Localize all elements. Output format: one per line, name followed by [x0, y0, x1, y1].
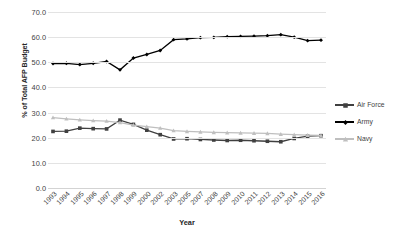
- x-axis-tick-label: 2009: [216, 190, 232, 206]
- y-axis-tick-label: 50.0: [32, 58, 46, 67]
- legend-label: Air Force: [357, 101, 385, 108]
- legend-marker-square: [341, 101, 348, 108]
- legend-item-air-force[interactable]: Air Force: [335, 100, 385, 109]
- data-point: [279, 140, 283, 144]
- line-chart: % of Total AFP Budget 0.010.020.030.040.…: [0, 0, 405, 232]
- data-point: [158, 133, 162, 137]
- gridline: [48, 12, 326, 13]
- x-axis-tick-label: 1994: [55, 190, 71, 206]
- chart-legend: Air ForceArmyNavy: [335, 100, 385, 143]
- gridline: [48, 113, 326, 114]
- legend-swatch: [335, 134, 354, 143]
- x-axis-tick-label: 2000: [136, 190, 152, 206]
- x-axis-tick-label: 2013: [270, 190, 286, 206]
- data-point: [145, 128, 149, 132]
- x-axis-tick-label: 2011: [243, 190, 259, 206]
- data-point: [78, 126, 82, 130]
- gridline: [48, 62, 326, 63]
- series-layer: [48, 12, 326, 188]
- gridline: [48, 87, 326, 88]
- x-axis-tick-label: 2008: [203, 190, 219, 206]
- gridline: [48, 163, 326, 164]
- gridline: [48, 37, 326, 38]
- x-axis-tick-label: 2012: [256, 190, 272, 206]
- x-axis-tick-label: 2014: [283, 190, 299, 206]
- legend-item-army[interactable]: Army: [335, 117, 385, 126]
- series-army: [51, 33, 323, 72]
- x-axis-tick-label: 1996: [82, 190, 98, 206]
- y-axis-tick-label: 20.0: [32, 133, 46, 142]
- legend-label: Navy: [357, 135, 373, 142]
- data-point: [225, 139, 229, 143]
- x-axis-tick-label: 2007: [189, 190, 205, 206]
- data-point: [212, 138, 216, 142]
- x-axis-tick-label: 2005: [176, 190, 192, 206]
- data-point: [266, 139, 270, 143]
- x-axis-title: Year: [48, 218, 326, 227]
- x-axis-tick-label: 1997: [96, 190, 112, 206]
- legend-swatch: [335, 100, 354, 109]
- data-point: [239, 138, 243, 142]
- data-point: [145, 53, 149, 57]
- y-axis-tick-label: 40.0: [32, 83, 46, 92]
- data-point: [51, 130, 55, 134]
- x-axis-tick-label: 1999: [122, 190, 138, 206]
- x-axis-tick-label: 1998: [109, 190, 125, 206]
- data-point: [279, 33, 283, 37]
- y-axis-tick-label: 30.0: [32, 108, 46, 117]
- data-point: [91, 127, 95, 131]
- x-axis-tick-label: 2002: [149, 190, 165, 206]
- legend-swatch: [335, 117, 354, 126]
- legend-label: Army: [357, 118, 373, 125]
- x-axis-tick-label: 2015: [297, 190, 313, 206]
- data-point: [252, 139, 256, 143]
- y-axis-tick-label: 70.0: [32, 8, 46, 17]
- x-axis-tick-label: 1995: [69, 190, 85, 206]
- gridline: [48, 138, 326, 139]
- y-axis-tick-label: 60.0: [32, 33, 46, 42]
- legend-item-navy[interactable]: Navy: [335, 134, 385, 143]
- legend-marker-diamond: [341, 118, 348, 125]
- series-navy: [51, 115, 323, 137]
- x-axis-tick-label: 2003: [163, 190, 179, 206]
- x-axis-tick-label: 2016: [310, 190, 326, 206]
- data-point: [306, 39, 310, 43]
- y-axis-tick-label: 0.0: [36, 184, 46, 193]
- x-axis-tick-label: 2010: [230, 190, 246, 206]
- y-axis-tick-labels: 0.010.020.030.040.050.060.070.0: [14, 0, 46, 232]
- data-point: [105, 127, 109, 131]
- data-point: [319, 38, 323, 42]
- y-axis-tick-label: 10.0: [32, 158, 46, 167]
- legend-marker-triangle: [341, 135, 348, 142]
- data-point: [65, 129, 69, 133]
- plot-area: [48, 12, 326, 188]
